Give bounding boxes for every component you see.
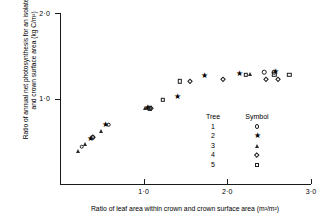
star-icon: ★	[102, 122, 109, 127]
data-point	[76, 149, 80, 153]
legend-header-symbol: Symbol	[234, 112, 280, 122]
data-point: ★	[201, 73, 208, 78]
legend-item: 5	[192, 160, 280, 170]
square-icon	[177, 79, 181, 83]
data-point: ★	[236, 70, 243, 75]
data-point	[221, 77, 225, 81]
legend-symbol: ★	[234, 133, 280, 138]
legend-item: 2★	[192, 131, 280, 141]
data-point	[244, 73, 248, 77]
legend-symbol	[234, 163, 280, 167]
legend-header-tree: Tree	[192, 112, 234, 122]
triangle-icon	[76, 149, 80, 153]
star-icon: ★	[201, 73, 208, 78]
star-icon: ★	[254, 133, 261, 138]
data-point	[264, 78, 268, 82]
square-icon	[287, 73, 291, 77]
square-icon	[161, 98, 165, 102]
diamond-icon	[275, 76, 280, 81]
data-point	[92, 136, 96, 140]
diamond-icon	[187, 78, 192, 83]
legend-tree-number: 2	[192, 131, 234, 141]
diamond-icon	[91, 135, 96, 140]
data-point	[272, 72, 276, 76]
data-point	[83, 142, 87, 146]
diamond-icon	[263, 77, 268, 82]
star-icon: ★	[236, 70, 243, 75]
data-point	[287, 73, 291, 77]
square-icon	[255, 163, 259, 167]
circle-icon	[255, 124, 260, 129]
triangle-icon	[83, 142, 87, 146]
circle-icon	[262, 70, 267, 75]
square-icon	[147, 106, 151, 110]
data-point	[161, 98, 165, 102]
data-point	[276, 77, 280, 81]
diamond-icon	[221, 76, 226, 81]
legend-tree-number: 4	[192, 150, 234, 160]
legend-item: 1	[192, 122, 280, 132]
triangle-icon	[248, 72, 252, 76]
figure: 1·02·0 1·02·03·0 Ratio of annual net pho…	[0, 0, 330, 220]
legend-symbol	[234, 124, 280, 129]
data-point	[262, 70, 267, 75]
triangle-icon	[99, 129, 103, 133]
data-point	[248, 72, 252, 76]
star-icon: ★	[174, 93, 181, 98]
data-point	[147, 106, 151, 110]
square-icon	[272, 72, 276, 76]
triangle-icon	[255, 144, 259, 148]
diamond-icon	[255, 153, 260, 158]
legend-symbol	[234, 144, 280, 148]
data-point	[99, 129, 103, 133]
data-point	[177, 79, 181, 83]
data-point: ★	[174, 93, 181, 98]
legend-tree-number: 5	[192, 160, 234, 170]
legend-tree-number: 1	[192, 122, 234, 132]
plot-area: ★★★★★★★	[0, 0, 330, 220]
legend-item: 3	[192, 141, 280, 151]
data-point	[188, 79, 192, 83]
data-point: ★	[102, 122, 109, 127]
legend-item: 4	[192, 150, 280, 160]
legend-header: Tree Symbol	[192, 112, 280, 122]
legend-symbol	[234, 153, 280, 157]
legend: Tree Symbol 12★345	[192, 112, 280, 170]
square-icon	[244, 73, 248, 77]
legend-tree-number: 3	[192, 141, 234, 151]
